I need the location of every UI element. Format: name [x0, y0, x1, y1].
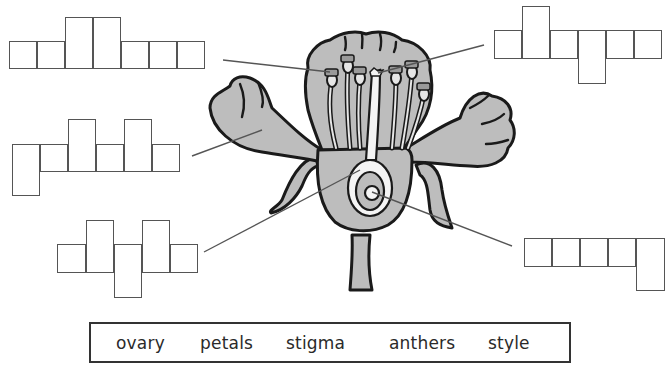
letter-box[interactable]	[114, 244, 142, 298]
word-petals: petals	[200, 333, 253, 353]
word-style: style	[488, 333, 530, 353]
letter-box[interactable]	[9, 41, 37, 69]
right-sepal	[416, 163, 452, 228]
letter-box[interactable]	[96, 144, 124, 172]
letter-box[interactable]	[494, 30, 522, 59]
flower-labeling-worksheet: ovary petals stigma anthers style	[0, 0, 667, 375]
letter-box[interactable]	[37, 41, 65, 69]
letter-box[interactable]	[636, 238, 665, 291]
letter-box[interactable]	[550, 30, 578, 59]
stem	[350, 235, 372, 290]
anther	[417, 83, 430, 90]
letter-box[interactable]	[522, 6, 550, 59]
anther	[353, 67, 366, 74]
letter-box[interactable]	[578, 30, 606, 84]
letter-box[interactable]	[121, 41, 149, 69]
word-anthers: anthers	[389, 333, 455, 353]
letter-box[interactable]	[177, 41, 205, 69]
letter-box[interactable]	[524, 238, 552, 267]
letter-box[interactable]	[606, 30, 634, 59]
letter-box[interactable]	[93, 17, 121, 69]
letter-box[interactable]	[552, 238, 580, 267]
letter-box[interactable]	[57, 244, 86, 273]
letter-box[interactable]	[170, 244, 198, 273]
letter-box[interactable]	[12, 144, 40, 196]
letter-box[interactable]	[580, 238, 608, 267]
word-bank: ovary petals stigma anthers style	[89, 322, 571, 363]
word-stigma: stigma	[286, 333, 345, 353]
word-ovary: ovary	[116, 333, 165, 353]
letter-box[interactable]	[40, 144, 68, 172]
letter-box[interactable]	[86, 220, 114, 273]
letter-box[interactable]	[608, 238, 636, 267]
letter-box[interactable]	[142, 220, 170, 273]
ovule	[365, 186, 379, 200]
letter-box[interactable]	[65, 17, 93, 69]
anther	[341, 55, 354, 62]
letter-box[interactable]	[149, 41, 177, 69]
letter-box[interactable]	[68, 119, 96, 172]
letter-box[interactable]	[634, 30, 662, 59]
letter-box[interactable]	[152, 144, 180, 172]
anther	[325, 69, 338, 76]
letter-box[interactable]	[124, 119, 152, 172]
